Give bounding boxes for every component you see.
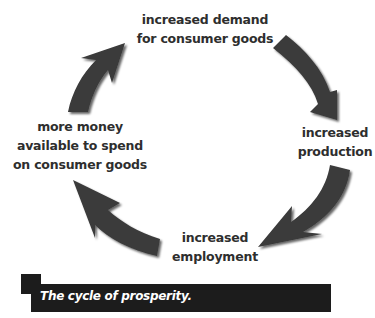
node-text: increased xyxy=(290,123,375,142)
node-text: production xyxy=(290,142,375,161)
node-increased-production: increased production xyxy=(290,123,375,161)
node-text: increased xyxy=(165,228,265,247)
curved-arrow-icon xyxy=(73,180,160,256)
node-text: available to spend xyxy=(10,136,150,155)
node-text: employment xyxy=(165,247,265,266)
node-text: on consumer goods xyxy=(10,155,150,174)
node-text: more money xyxy=(10,117,150,136)
node-increased-demand: increased demand for consumer goods xyxy=(130,10,280,48)
figure-caption: The cycle of prosperity. xyxy=(40,289,192,303)
curved-arrow-icon xyxy=(68,43,125,112)
node-more-money: more money available to spend on consume… xyxy=(10,117,150,174)
node-text: increased demand xyxy=(130,10,280,29)
node-increased-employment: increased employment xyxy=(165,228,265,266)
node-text: for consumer goods xyxy=(130,29,280,48)
curved-arrow-icon xyxy=(273,35,337,120)
curved-arrow-icon xyxy=(258,165,350,247)
